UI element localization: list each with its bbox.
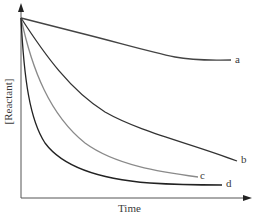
y-axis-arrow-icon — [18, 3, 24, 12]
curve-label-c: c — [200, 170, 205, 181]
curve-label-b: b — [241, 154, 247, 165]
curve-d — [21, 18, 222, 185]
curve-label-a: a — [235, 54, 240, 65]
curve-c — [21, 18, 198, 177]
curve-a — [21, 18, 231, 60]
x-axis-label: Time — [118, 203, 141, 214]
y-axis-label: [Reactant] — [3, 79, 14, 125]
x-axis-arrow-icon — [243, 195, 252, 201]
reaction-kinetics-chart — [0, 0, 256, 217]
curve-b — [21, 18, 237, 161]
curve-label-d: d — [226, 178, 232, 189]
